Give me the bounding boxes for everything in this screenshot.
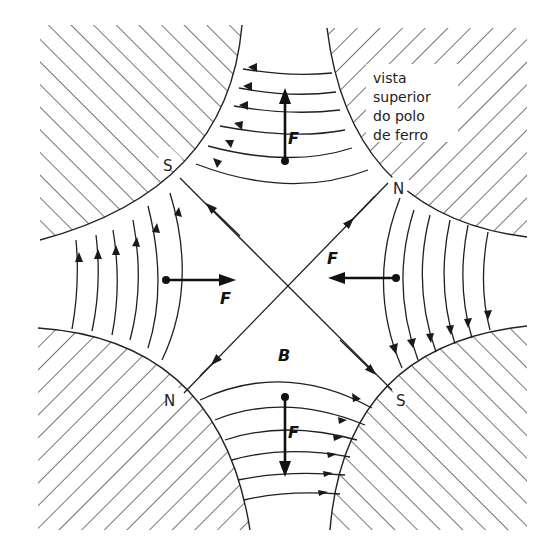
caption-line-1: vista <box>373 70 407 86</box>
pole-label-top-left: S <box>163 157 173 175</box>
magnetic-field-diagram: S N N S F F F F B vista superior do polo… <box>0 0 560 550</box>
force-label-right: F <box>327 249 338 268</box>
pole-label-bottom-left: N <box>164 392 175 410</box>
force-right <box>328 272 400 284</box>
caption-line-3: do polo <box>373 108 425 124</box>
force-label-bottom: F <box>288 423 299 442</box>
pole-label-top-right: N <box>393 180 404 198</box>
force-label-top: F <box>288 129 299 148</box>
force-left <box>162 274 236 286</box>
pole-bottom-left <box>30 320 260 535</box>
field-label-b: B <box>278 346 290 365</box>
force-label-left: F <box>220 289 231 308</box>
pole-label-bottom-right: S <box>396 392 406 410</box>
caption-line-2: superior <box>373 89 431 105</box>
caption-line-4: de ferro <box>373 127 428 143</box>
force-top <box>279 88 291 165</box>
pole-top-left <box>30 15 260 255</box>
